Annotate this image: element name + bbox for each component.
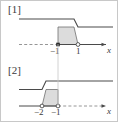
- panel-1-x-axis-arrow: [102, 43, 107, 47]
- panel-2-tick-minus2: −2: [34, 108, 44, 117]
- panel-2-axis-name: x: [107, 107, 111, 116]
- panel-1: [1] −1 1 x: [1, 1, 118, 62]
- panel-1-step-curve: [19, 19, 113, 27]
- panel-1-tick-1: 1: [76, 47, 81, 56]
- panel-2-x-axis-arrow: [102, 104, 107, 108]
- panel-2: [2] −2 −1 x: [1, 62, 118, 122]
- panel-1-shaded-region: [58, 27, 78, 45]
- panel-2-tick-minus1: −1: [51, 108, 61, 117]
- panel-1-axis-name: x: [107, 46, 111, 55]
- panel-1-tick-minus1: −1: [50, 47, 60, 56]
- panel-2-step-curve: [19, 81, 113, 90]
- panel-2-shaded-region: [42, 90, 58, 107]
- figure-container: [1] −1 1 x [2]: [0, 0, 118, 122]
